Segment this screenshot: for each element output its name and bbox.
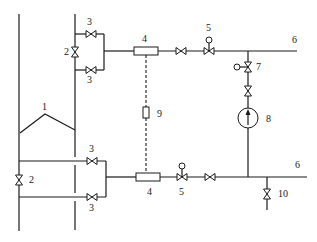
label-vessel: 1 [42, 101, 47, 112]
vessel-leader [20, 114, 75, 133]
isolation-valve-icon[interactable] [86, 67, 96, 74]
label-valve-3: 3 [89, 143, 94, 154]
label-valve-2: 2 [29, 174, 34, 185]
valve-icon[interactable] [176, 48, 186, 55]
label-condenser: 4 [142, 33, 147, 44]
label-valve-3: 3 [89, 202, 94, 213]
label-outlet-6: 6 [292, 34, 297, 45]
label-valve-5: 5 [179, 186, 184, 197]
label-outlet-6: 6 [295, 159, 300, 170]
root-valve-icon[interactable] [16, 175, 23, 185]
control-valve-handwheel [206, 37, 212, 43]
drain-valve-icon[interactable] [264, 189, 271, 199]
condenser-upper [134, 47, 158, 55]
balance-valve-handwheel [234, 64, 240, 70]
gauge-valve-icon[interactable] [245, 86, 252, 96]
isolation-valve-icon[interactable] [87, 194, 97, 201]
label-gauge-8: 8 [266, 113, 271, 124]
label-valve-3: 3 [87, 74, 92, 85]
label-valve-3: 3 [87, 16, 92, 27]
root-valve-icon[interactable] [72, 47, 79, 57]
isolation-valve-icon[interactable] [86, 31, 96, 38]
label-condenser: 4 [147, 186, 152, 197]
label-valve-2: 2 [64, 46, 69, 57]
label-valve-5: 5 [206, 22, 211, 33]
label-connector-9: 9 [157, 108, 162, 119]
piping-diagram: 1 3 3 2 4 5 6 7 8 9 3 3 2 4 5 6 [0, 0, 317, 242]
isolation-valve-icon[interactable] [87, 158, 97, 165]
control-valve-handwheel [179, 163, 185, 169]
label-drain-10: 10 [278, 188, 288, 199]
connector-box [143, 107, 149, 118]
valve-icon[interactable] [205, 174, 215, 181]
label-valve-7: 7 [256, 61, 261, 72]
condenser-lower [136, 173, 160, 181]
